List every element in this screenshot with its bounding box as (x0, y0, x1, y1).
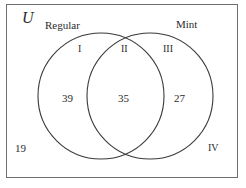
set-label-mint: Mint (176, 19, 197, 30)
region-numeral-iii: III (163, 44, 173, 54)
count-mint-only: 27 (174, 93, 185, 104)
region-numeral-iv: IV (208, 143, 219, 153)
circle-mint (87, 33, 213, 159)
venn-diagram-figure: U Regular Mint I II III IV 39 35 27 19 (0, 0, 246, 188)
count-intersection: 35 (118, 93, 129, 104)
set-label-regular: Regular (45, 20, 80, 31)
count-regular-only: 39 (62, 93, 73, 104)
circle-regular (38, 33, 164, 159)
universal-set-label: U (22, 10, 34, 26)
count-outside: 19 (15, 143, 26, 154)
region-numeral-ii: II (121, 44, 128, 54)
region-numeral-i: I (78, 44, 81, 54)
